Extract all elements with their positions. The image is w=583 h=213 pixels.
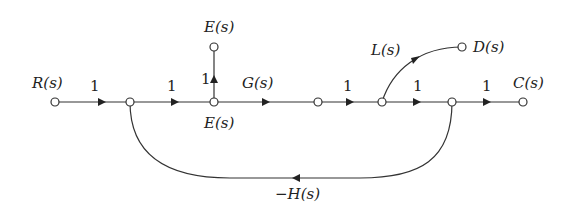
node-r xyxy=(51,98,59,106)
node-g-out xyxy=(314,98,322,106)
arrow-icon xyxy=(411,56,420,64)
node-disturbance-sum xyxy=(378,98,386,106)
arrow-icon xyxy=(171,98,179,106)
gain-label: 1 xyxy=(343,77,353,95)
arrow-icon xyxy=(483,98,491,106)
arrow-icon xyxy=(98,98,106,106)
gain-label: 1 xyxy=(90,77,100,95)
arrow-icon xyxy=(346,98,354,106)
node-e xyxy=(210,98,218,106)
feedback-branch-curve xyxy=(130,102,452,178)
label-d: D(s) xyxy=(472,38,505,56)
label-e-bottom: E(s) xyxy=(203,114,234,132)
label-l: L(s) xyxy=(370,41,401,59)
gain-label: 1 xyxy=(482,77,492,95)
gain-label: 1 xyxy=(201,70,211,88)
label-c: C(s) xyxy=(513,74,544,92)
gain-label: 1 xyxy=(167,77,177,95)
node-e-output xyxy=(210,43,218,51)
arrow-icon xyxy=(262,98,270,106)
label-h: −H(s) xyxy=(275,185,320,203)
node-sum xyxy=(126,98,134,106)
arrow-icon xyxy=(292,174,300,182)
gain-label: 1 xyxy=(413,77,423,95)
node-d xyxy=(458,43,466,51)
arrow-icon xyxy=(210,75,218,83)
node-pickoff xyxy=(448,98,456,106)
label-e-top: E(s) xyxy=(203,18,234,36)
node-c xyxy=(519,98,527,106)
signal-flow-graph: R(s) 1 1 1 E(s) E(s) G(s) 1 L(s) D(s) 1 … xyxy=(0,0,583,213)
label-r: R(s) xyxy=(31,74,63,92)
label-g: G(s) xyxy=(242,74,274,92)
arrow-icon xyxy=(413,98,421,106)
